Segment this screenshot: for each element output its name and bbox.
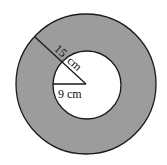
inner-circle: [53, 51, 121, 119]
inner-radius-label: 9 cm: [58, 87, 82, 101]
annulus-diagram: 15 cm 9 cm: [0, 0, 167, 165]
